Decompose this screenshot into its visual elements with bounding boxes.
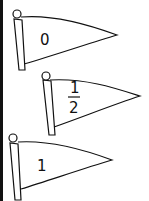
- flag-label: 0: [40, 31, 50, 49]
- flag-label: 1: [37, 157, 47, 175]
- pennant-shape: [18, 142, 112, 189]
- flag-one: 1: [9, 134, 112, 200]
- flag-half: 1 2: [42, 72, 140, 135]
- pennant-shape: [21, 16, 117, 64]
- pole-knob: [42, 72, 50, 80]
- fraction-denominator: 2: [69, 99, 79, 117]
- pole-knob: [9, 134, 17, 142]
- pennant-shape: [50, 80, 140, 127]
- fraction-numerator: 1: [70, 79, 80, 97]
- flag-zero: 0: [13, 10, 117, 70]
- pennant-diagram: 0 1 2 1: [0, 0, 149, 201]
- pole-knob: [13, 10, 21, 18]
